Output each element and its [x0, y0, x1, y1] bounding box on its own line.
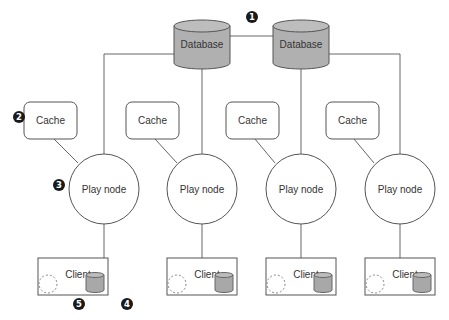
database-2: Database	[273, 20, 329, 69]
play-node-4: Play node	[365, 154, 435, 224]
cache2-node2-line	[155, 139, 177, 163]
client-1: Client	[38, 258, 108, 295]
play-node-label: Play node	[82, 184, 127, 195]
badge-number: 2	[16, 112, 22, 122]
callout-badge-3: 3	[53, 179, 65, 191]
play-node-label: Play node	[279, 184, 324, 195]
cache-2: Cache	[126, 102, 179, 139]
client-2: Client	[167, 258, 237, 295]
cache3-node3-line	[255, 139, 275, 163]
connector-lines	[54, 36, 400, 258]
badge-number: 5	[76, 299, 82, 309]
badge-number: 4	[124, 299, 130, 309]
play-node-label: Play node	[180, 184, 225, 195]
cache-label: Cache	[238, 115, 267, 126]
database-label: Database	[280, 39, 323, 50]
cache-1: Cache	[24, 102, 77, 139]
badge-number: 1	[249, 12, 255, 22]
architecture-diagram: DatabaseDatabase CacheCacheCacheCache Pl…	[0, 0, 449, 320]
play-node-3: Play node	[266, 154, 336, 224]
cache1-node1-line	[54, 139, 78, 163]
cache-label: Cache	[138, 115, 167, 126]
cache-4: Cache	[326, 102, 379, 139]
database-label: Database	[181, 39, 224, 50]
play-node-1: Play node	[69, 154, 139, 224]
callout-badge-4: 4	[121, 298, 133, 310]
callout-badge-5: 5	[73, 298, 85, 310]
callout-badge-1: 1	[246, 11, 258, 23]
play-node-label: Play node	[378, 184, 423, 195]
badge-number: 3	[56, 180, 62, 190]
client-3: Client	[266, 258, 336, 295]
cache-label: Cache	[36, 115, 65, 126]
client-4: Client	[365, 258, 435, 295]
database-1: Database	[174, 20, 230, 69]
cache-3: Cache	[226, 102, 279, 139]
cache-label: Cache	[338, 115, 367, 126]
cache4-node4-line	[354, 139, 374, 163]
play-node-2: Play node	[167, 154, 237, 224]
callout-badge-2: 2	[13, 111, 25, 123]
